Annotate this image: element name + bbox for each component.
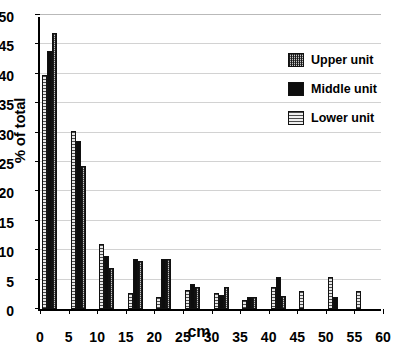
bar xyxy=(195,287,200,309)
y-axis-tick-mark xyxy=(35,14,40,15)
bar xyxy=(281,296,286,309)
y-axis-tick-label: 45 xyxy=(0,39,14,53)
y-axis-tick-mark xyxy=(35,220,40,221)
legend-label: Upper unit xyxy=(311,53,374,67)
legend-item: Middle unit xyxy=(288,81,394,97)
legend-label: Lower unit xyxy=(311,111,374,125)
bar xyxy=(252,297,257,309)
y-axis-tick-label: 5 xyxy=(0,275,14,289)
bar xyxy=(299,291,304,309)
y-axis-tick-label: 35 xyxy=(0,98,14,112)
y-axis-tick-label: 40 xyxy=(0,69,14,83)
bar-group xyxy=(242,17,257,309)
bar-group xyxy=(71,17,86,309)
y-axis-tick-mark xyxy=(35,102,40,103)
y-axis-tick-mark xyxy=(35,73,40,74)
bar-group xyxy=(156,17,171,309)
legend-swatch-icon xyxy=(288,82,304,96)
bar xyxy=(52,33,57,309)
legend-item: Upper unit xyxy=(288,52,394,68)
legend-item: Lower unit xyxy=(288,110,394,126)
legend: Upper unitMiddle unitLower unit xyxy=(288,52,394,139)
x-axis-tick-mark xyxy=(297,309,298,314)
x-axis-tick-mark xyxy=(240,309,241,314)
legend-label: Middle unit xyxy=(311,82,377,96)
bar-group xyxy=(185,17,200,309)
x-axis-tick-mark xyxy=(212,309,213,314)
bar xyxy=(333,297,338,309)
y-axis-tick-mark xyxy=(35,279,40,280)
y-axis-tick-label: 20 xyxy=(0,186,14,200)
y-axis-tick-label: 30 xyxy=(0,128,14,142)
x-axis-tick-mark xyxy=(69,309,70,314)
y-axis-tick-label: 0 xyxy=(0,304,14,318)
x-axis-tick-mark xyxy=(97,309,98,314)
legend-swatch-icon xyxy=(288,111,304,125)
y-axis-tick-label: 50 xyxy=(0,10,14,24)
bar xyxy=(166,259,171,309)
bar xyxy=(356,291,361,309)
y-axis-tick-mark xyxy=(35,249,40,250)
bar-chart: % of total 05101520253035404550 05101520… xyxy=(0,0,398,344)
x-axis-tick-mark xyxy=(383,309,384,314)
x-axis-tick-mark xyxy=(326,309,327,314)
legend-swatch-icon xyxy=(288,53,304,67)
y-axis-tick-label: 10 xyxy=(0,245,14,259)
y-axis-tick-label: 15 xyxy=(0,216,14,230)
bar xyxy=(109,268,114,309)
x-axis-title: cm xyxy=(0,323,398,341)
gridline xyxy=(40,14,381,15)
y-axis-tick-mark xyxy=(35,43,40,44)
x-axis-tick-mark xyxy=(183,309,184,314)
y-axis-tick-mark xyxy=(35,190,40,191)
bar-group xyxy=(99,17,114,309)
bar xyxy=(224,287,229,309)
x-axis-tick-mark xyxy=(269,309,270,314)
x-axis-tick-mark xyxy=(354,309,355,314)
x-axis-tick-mark xyxy=(40,309,41,314)
bar-group xyxy=(42,17,57,309)
bar xyxy=(138,261,143,309)
bar xyxy=(81,166,86,309)
bar-group xyxy=(271,17,286,309)
y-axis-tick-label: 25 xyxy=(0,157,14,171)
bar-group xyxy=(128,17,143,309)
y-axis-tick-mark xyxy=(35,132,40,133)
y-axis-tick-mark xyxy=(35,161,40,162)
x-axis-tick-mark xyxy=(126,309,127,314)
x-axis-tick-mark xyxy=(154,309,155,314)
bar-group xyxy=(214,17,229,309)
